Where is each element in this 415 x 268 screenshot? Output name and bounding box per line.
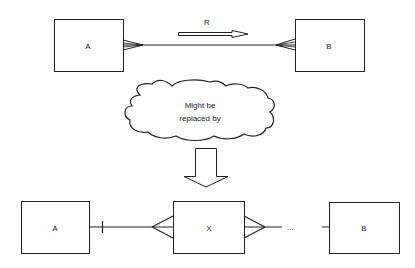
ellipsis-label: ... [287, 223, 294, 232]
top-entity-b-label: B [326, 42, 331, 51]
cloud-text-line1: Might be [185, 101, 216, 110]
bottom-entity-b[interactable]: B [330, 203, 400, 254]
relationship-r-line[interactable] [123, 39, 295, 50]
bottom-entity-b-label: B [361, 224, 366, 233]
direction-arrow-icon [179, 31, 249, 38]
top-entity-b[interactable]: B [296, 20, 365, 72]
down-arrow-icon [184, 149, 228, 188]
relationship-x-b-line[interactable]: ... [244, 216, 329, 238]
cloud-text-line2: replaced by [179, 114, 220, 123]
bottom-entity-a[interactable]: A [22, 202, 90, 254]
bottom-entity-x-label: X [206, 224, 212, 233]
er-diagram: A B R Might be replaced by [0, 0, 415, 268]
top-entity-a[interactable]: A [55, 20, 124, 72]
relationship-r-label: R [204, 18, 210, 27]
bottom-entity-x[interactable]: X [174, 202, 245, 254]
top-entity-a-label: A [85, 42, 91, 51]
bottom-entity-a-label: A [52, 224, 58, 233]
relationship-a-x-line[interactable] [89, 216, 173, 238]
cloud-shape: Might be replaced by [125, 80, 274, 141]
